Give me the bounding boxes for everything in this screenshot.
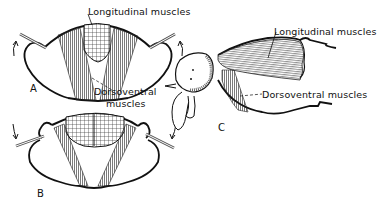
label-a-dorsoventral-line2: muscles <box>106 98 146 109</box>
panel-letter-c: C <box>218 122 225 133</box>
panel-c-lateral-view <box>165 32 336 130</box>
panel-b-thorax-section <box>13 114 176 189</box>
label-c-longitudinal-muscles: Longitudinal muscles <box>274 26 376 37</box>
label-a-longitudinal-muscles: Longitudinal muscles <box>88 6 190 17</box>
panel-letter-a: A <box>30 83 37 94</box>
label-a-dorsoventral-line1: Dorsoventral <box>94 86 157 97</box>
label-c-dorsoventral-muscles: Dorsoventral muscles <box>262 89 367 100</box>
panel-letter-b: B <box>37 188 44 199</box>
insect-flight-muscles-diagram: Longitudinal muscles Dorsoventral muscle… <box>0 0 386 208</box>
